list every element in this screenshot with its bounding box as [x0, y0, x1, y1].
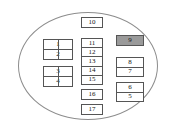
cell-15: 15 [82, 75, 102, 84]
diagram-canvas: 1 2 3 4 10 11 12 13 14 15 16 17 9 8 7 6 … [0, 0, 177, 131]
cell-9: 9 [117, 36, 143, 45]
cell-14: 14 [82, 66, 102, 75]
cell-12: 12 [82, 47, 102, 56]
box-17[interactable]: 17 [81, 104, 103, 115]
cell-17: 17 [82, 105, 102, 114]
cell-3: 3 [44, 67, 72, 76]
box-16[interactable]: 16 [81, 89, 103, 100]
box-11-15[interactable]: 11 12 13 14 15 [81, 38, 103, 85]
cell-6: 6 [117, 83, 143, 92]
cell-8: 8 [117, 58, 143, 67]
box-9-highlighted[interactable]: 9 [116, 35, 144, 46]
cell-2: 2 [44, 49, 72, 59]
cell-10: 10 [82, 18, 102, 27]
cell-16: 16 [82, 90, 102, 99]
cell-5: 5 [117, 92, 143, 102]
cell-4: 4 [44, 76, 72, 86]
box-1-2[interactable]: 1 2 [43, 39, 73, 60]
cell-13: 13 [82, 56, 102, 65]
cell-11: 11 [82, 39, 102, 47]
box-8-7[interactable]: 8 7 [116, 57, 144, 77]
cell-7: 7 [117, 67, 143, 77]
cell-1: 1 [44, 40, 72, 49]
box-6-5[interactable]: 6 5 [116, 82, 144, 102]
box-10[interactable]: 10 [81, 17, 103, 28]
box-3-4[interactable]: 3 4 [43, 66, 73, 87]
